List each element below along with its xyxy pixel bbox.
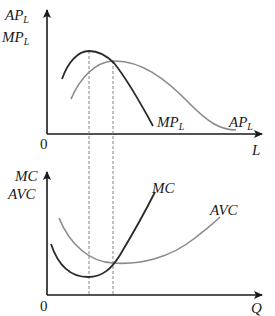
- production-cost-diagram: [0, 0, 275, 316]
- ap-curve: [71, 61, 236, 130]
- avc-curve-label: AVC: [210, 203, 238, 218]
- origin-label-top: 0: [40, 137, 48, 152]
- y-axis-label-ap: APL: [5, 8, 29, 25]
- mc-curve: [51, 192, 155, 277]
- avc-curve: [59, 217, 220, 263]
- ap-curve-label: APL: [229, 115, 253, 132]
- mc-curve-label: MC: [152, 181, 175, 196]
- x-axis-label-l: L: [252, 143, 260, 158]
- origin-label-bottom: 0: [40, 299, 48, 314]
- mp-curve-label: MPL: [157, 115, 184, 132]
- x-axis-label-q: Q: [251, 301, 262, 316]
- y-axis-label-mc: MC: [15, 169, 38, 184]
- y-axis-label-mp: MPL: [2, 30, 29, 47]
- y-axis-label-avc: AVC: [8, 187, 36, 202]
